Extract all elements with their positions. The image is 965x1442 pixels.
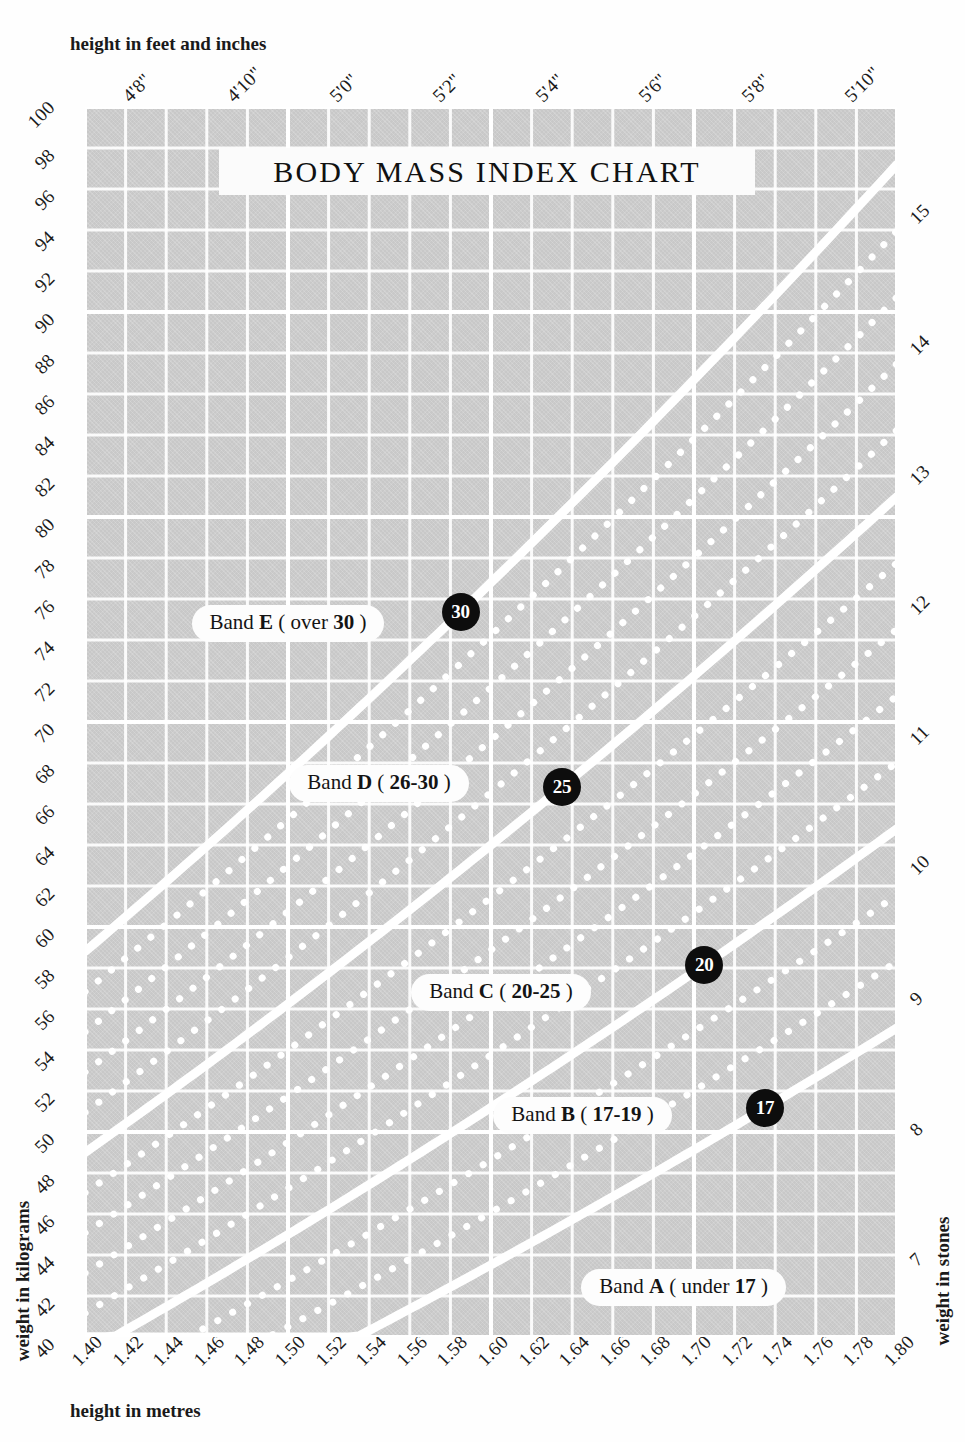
tick-label-kilograms: 78 <box>30 554 59 583</box>
tick-label-metres: 1.74 <box>757 1331 797 1371</box>
band-letter: D <box>357 770 372 794</box>
tick-label-metres: 1.50 <box>270 1331 310 1371</box>
bmi-badge-30: 30 <box>442 593 480 631</box>
right-axis-title: weight in stones <box>932 1196 954 1366</box>
band-range: ( under 17 ) <box>664 1274 768 1298</box>
tick-label-feet-inches: 5'6" <box>634 69 671 106</box>
tick-label-kilograms: 80 <box>30 513 59 542</box>
tick-label-metres: 1.72 <box>717 1331 757 1371</box>
tick-label-feet-inches: 5'2" <box>428 69 465 106</box>
tick-label-kilograms: 96 <box>30 185 59 214</box>
tick-label-kilograms: 90 <box>30 308 59 337</box>
tick-label-kilograms: 68 <box>30 759 59 788</box>
band-range: ( over 30 ) <box>273 610 366 634</box>
tick-label-stones: 8 <box>905 1118 927 1140</box>
tick-label-feet-inches: 5'4" <box>531 69 568 106</box>
band-letter: E <box>259 610 273 634</box>
tick-label-stones: 14 <box>905 330 934 359</box>
band-label-a: Band A ( under 17 ) <box>581 1269 786 1306</box>
tick-label-metres: 1.54 <box>351 1331 391 1371</box>
tick-label-kilograms: 82 <box>30 472 59 501</box>
tick-label-stones: 9 <box>905 988 927 1010</box>
tick-label-metres: 1.42 <box>108 1331 148 1371</box>
band-label-prefix: Band <box>307 770 357 794</box>
tick-label-kilograms: 98 <box>30 144 59 173</box>
tick-label-kilograms: 56 <box>30 1005 59 1034</box>
tick-label-kilograms: 64 <box>30 841 59 870</box>
tick-label-kilograms: 66 <box>30 800 59 829</box>
band-label-prefix: Band <box>210 610 260 634</box>
left-axis-title: weight in kilograms <box>12 1196 34 1366</box>
tick-label-metres: 1.66 <box>595 1331 635 1371</box>
bmi-chart-plot <box>85 107 897 1337</box>
tick-label-metres: 1.80 <box>879 1331 919 1371</box>
band-letter: B <box>561 1102 575 1126</box>
tick-label-stones: 12 <box>905 590 934 619</box>
band-range: ( 17-19 ) <box>575 1102 654 1126</box>
band-label-prefix: Band <box>511 1102 561 1126</box>
tick-label-kilograms: 74 <box>30 636 59 665</box>
tick-label-feet-inches: 4'10" <box>222 62 266 106</box>
tick-label-kilograms: 100 <box>23 97 59 133</box>
tick-label-feet-inches: 5'0" <box>325 69 362 106</box>
band-label-prefix: Band <box>599 1274 649 1298</box>
tick-label-kilograms: 62 <box>30 882 59 911</box>
tick-label-kilograms: 58 <box>30 964 59 993</box>
bmi-badge-17: 17 <box>746 1089 784 1127</box>
tick-label-stones: 11 <box>905 721 934 750</box>
tick-label-stones: 10 <box>905 851 934 880</box>
tick-label-stones: 13 <box>905 460 934 489</box>
tick-label-metres: 1.58 <box>433 1331 473 1371</box>
tick-label-kilograms: 86 <box>30 390 59 419</box>
tick-label-feet-inches: 5'8" <box>737 69 774 106</box>
tick-label-metres: 1.46 <box>189 1331 229 1371</box>
tick-label-kilograms: 84 <box>30 431 59 460</box>
bmi-badge-20: 20 <box>685 946 723 984</box>
band-label-b: Band B ( 17-19 ) <box>493 1097 671 1134</box>
bottom-axis-title: height in metres <box>70 1400 201 1422</box>
tick-label-metres: 1.60 <box>473 1331 513 1371</box>
tick-label-feet-inches: 4'8" <box>119 69 156 106</box>
band-range: ( 20-25 ) <box>494 979 573 1003</box>
tick-label-kilograms: 40 <box>30 1333 59 1362</box>
band-label-prefix: Band <box>429 979 479 1003</box>
band-range: ( 26-30 ) <box>372 770 451 794</box>
tick-label-kilograms: 48 <box>30 1169 59 1198</box>
band-letter: A <box>649 1274 664 1298</box>
tick-label-kilograms: 42 <box>30 1292 59 1321</box>
tick-label-kilograms: 76 <box>30 595 59 624</box>
tick-label-kilograms: 54 <box>30 1046 59 1075</box>
tick-label-metres: 1.78 <box>839 1331 879 1371</box>
tick-label-kilograms: 46 <box>30 1210 59 1239</box>
page-title: BODY MASS INDEX CHART <box>219 148 755 195</box>
bmi-badge-25: 25 <box>543 768 581 806</box>
tick-label-metres: 1.70 <box>676 1331 716 1371</box>
tick-label-metres: 1.52 <box>311 1331 351 1371</box>
tick-label-kilograms: 72 <box>30 677 59 706</box>
tick-label-metres: 1.48 <box>230 1331 270 1371</box>
tick-label-metres: 1.76 <box>798 1331 838 1371</box>
tick-label-kilograms: 94 <box>30 226 59 255</box>
tick-label-kilograms: 70 <box>30 718 59 747</box>
tick-label-metres: 1.56 <box>392 1331 432 1371</box>
bmi-grid-and-lines <box>85 107 897 1337</box>
tick-label-stones: 7 <box>905 1248 927 1270</box>
band-label-e: Band E ( over 30 ) <box>192 605 385 642</box>
tick-label-kilograms: 52 <box>30 1087 59 1116</box>
tick-label-kilograms: 50 <box>30 1128 59 1157</box>
tick-label-stones: 15 <box>905 200 934 229</box>
tick-label-metres: 1.68 <box>636 1331 676 1371</box>
tick-label-metres: 1.44 <box>148 1331 188 1371</box>
tick-label-kilograms: 44 <box>30 1251 59 1280</box>
tick-label-feet-inches: 5'10" <box>841 62 885 106</box>
band-label-c: Band C ( 20-25 ) <box>411 974 591 1011</box>
tick-label-kilograms: 92 <box>30 267 59 296</box>
band-label-d: Band D ( 26-30 ) <box>289 765 469 802</box>
top-axis-title: height in feet and inches <box>70 33 266 55</box>
tick-label-metres: 1.40 <box>67 1331 107 1371</box>
tick-label-kilograms: 60 <box>30 923 59 952</box>
tick-label-kilograms: 88 <box>30 349 59 378</box>
tick-label-metres: 1.64 <box>554 1331 594 1371</box>
band-letter: C <box>479 979 494 1003</box>
tick-label-metres: 1.62 <box>514 1331 554 1371</box>
